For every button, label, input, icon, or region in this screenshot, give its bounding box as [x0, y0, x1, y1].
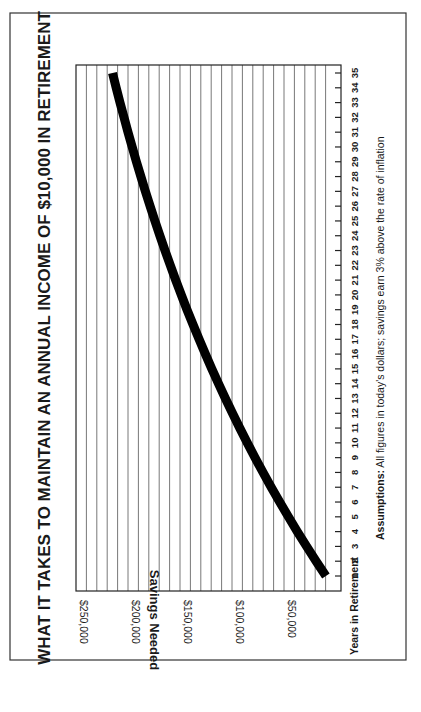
year-tick-label: 9: [349, 455, 360, 460]
year-tick-label: 20: [349, 290, 360, 301]
year-tick-label: 10: [349, 438, 360, 449]
year-tick-label: 26: [349, 201, 360, 212]
value-tick-label: $250,000: [78, 600, 90, 644]
year-tick-label: 16: [349, 349, 360, 360]
year-tick-label: 17: [349, 334, 360, 345]
year-tick-label: 23: [349, 245, 360, 256]
year-tick-label: 13: [349, 393, 360, 404]
year-tick-label: 14: [349, 378, 360, 389]
value-tick-label: $50,000: [286, 600, 298, 638]
year-tick-label: 29: [349, 156, 360, 167]
assumptions-footnote: Assumptions: All figures in today's doll…: [374, 136, 386, 540]
year-tick-label: 31: [349, 126, 360, 137]
year-tick-labels: 1234567891011121314151617181920212223242…: [349, 67, 360, 579]
year-tick-label: 33: [349, 97, 360, 108]
value-tick-label: $100,000: [234, 600, 246, 644]
year-tick-label: 6: [349, 499, 360, 504]
year-tick-label: 32: [349, 112, 360, 123]
year-tick-label: 4: [349, 528, 360, 534]
year-tick-label: 12: [349, 408, 360, 419]
year-tick-label: 27: [349, 186, 360, 197]
value-tick-label: $150,000: [182, 600, 194, 644]
year-tick-label: 7: [349, 485, 360, 490]
year-ticks: [335, 73, 341, 576]
y-axis-label: Savings Needed: [147, 570, 162, 670]
year-tick-label: 24: [349, 230, 360, 241]
year-tick-label: 34: [349, 82, 360, 93]
year-tick-label: 35: [349, 67, 360, 78]
x-axis-label: Years in Retirement: [348, 556, 360, 655]
year-tick-label: 25: [349, 215, 360, 226]
year-tick-label: 5: [349, 513, 360, 519]
assumptions-label: Assumptions:: [374, 470, 386, 540]
assumptions-text: All figures in today's dollars; savings …: [374, 136, 386, 467]
year-tick-label: 21: [349, 274, 360, 285]
year-tick-label: 15: [349, 363, 360, 374]
year-tick-label: 22: [349, 260, 360, 271]
outer-border: [10, 13, 406, 660]
savings-curve: [113, 73, 326, 576]
plot-area: [76, 65, 341, 591]
value-tick-labels: $50,000$100,000$150,000$200,000$250,000: [78, 600, 298, 644]
chart-title: WHAT IT TAKES TO MAINTAIN AN ANNUAL INCO…: [35, 11, 54, 665]
year-tick-label: 18: [349, 319, 360, 330]
year-tick-label: 11: [349, 422, 360, 433]
year-tick-label: 3: [349, 544, 360, 549]
year-tick-label: 8: [349, 470, 360, 475]
year-tick-label: 28: [349, 171, 360, 182]
chart-figure: WHAT IT TAKES TO MAINTAIN AN ANNUAL INCO…: [0, 0, 421, 712]
year-tick-label: 30: [349, 142, 360, 153]
value-tick-label: $200,000: [130, 600, 142, 644]
year-tick-label: 19: [349, 304, 360, 315]
